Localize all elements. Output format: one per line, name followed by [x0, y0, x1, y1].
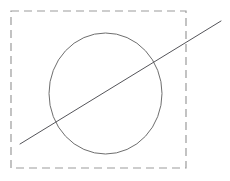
figure-canvas: Geometric figure: dashed bounding box wi…: [0, 0, 230, 181]
canvas-background: [0, 0, 230, 181]
figure-svg: Geometric figure: dashed bounding box wi…: [0, 0, 230, 181]
